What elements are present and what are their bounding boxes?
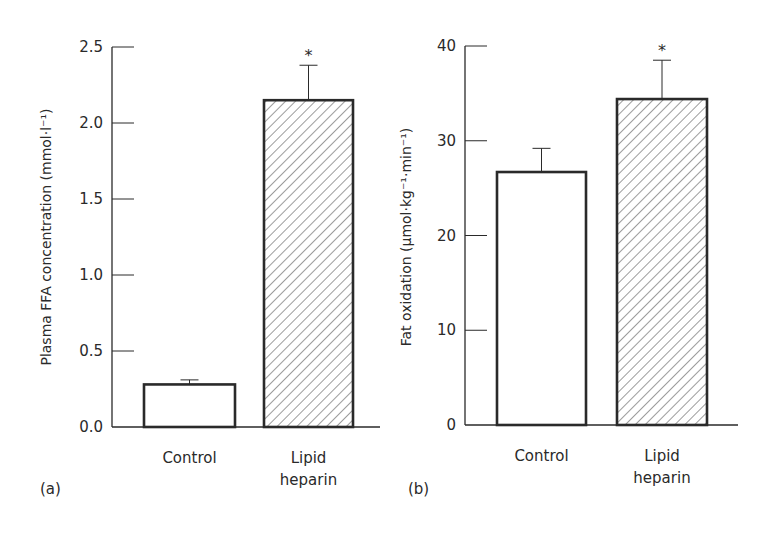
y-axis-title: Fat oxidation (µmol·kg⁻¹·min⁻¹) bbox=[398, 128, 414, 347]
panel-label: (a) bbox=[40, 480, 61, 498]
y-tick-label: 30 bbox=[437, 132, 456, 150]
bar-control bbox=[144, 384, 235, 427]
panel-a-chart: 0.00.51.01.52.02.5Plasma FFA concentrati… bbox=[38, 38, 380, 498]
significance-marker: * bbox=[305, 46, 313, 65]
x-category-label: Lipid bbox=[291, 449, 327, 467]
y-tick-label: 0 bbox=[446, 416, 456, 434]
panel-b-chart: 010203040Fat oxidation (µmol·kg⁻¹·min⁻¹)… bbox=[398, 37, 738, 498]
x-category-label: Lipid bbox=[644, 447, 680, 465]
x-category-label: heparin bbox=[280, 471, 337, 489]
bar-control bbox=[497, 172, 586, 425]
y-tick-label: 1.0 bbox=[79, 266, 103, 284]
y-tick-label: 0.5 bbox=[79, 342, 103, 360]
bar-lipid-heparin bbox=[617, 99, 707, 425]
y-axis-title: Plasma FFA concentration (mmol·l⁻¹) bbox=[38, 108, 54, 365]
x-category-label: Control bbox=[514, 447, 568, 465]
y-tick-label: 10 bbox=[437, 321, 456, 339]
y-tick-label: 20 bbox=[437, 227, 456, 245]
x-category-label: Control bbox=[162, 449, 216, 467]
figure: 0.00.51.01.52.02.5Plasma FFA concentrati… bbox=[0, 0, 765, 545]
x-category-label: heparin bbox=[633, 469, 690, 487]
bar-lipid-heparin bbox=[264, 100, 353, 427]
y-tick-label: 2.5 bbox=[79, 38, 103, 56]
y-tick-label: 0.0 bbox=[79, 418, 103, 436]
y-tick-label: 2.0 bbox=[79, 114, 103, 132]
y-tick-label: 40 bbox=[437, 37, 456, 55]
panel-label: (b) bbox=[408, 480, 429, 498]
y-tick-label: 1.5 bbox=[79, 190, 103, 208]
significance-marker: * bbox=[658, 41, 666, 60]
